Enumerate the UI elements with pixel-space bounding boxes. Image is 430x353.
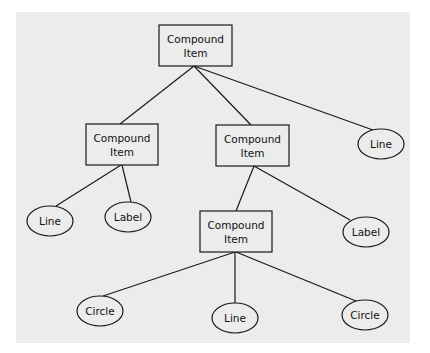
node-label: Compound [224,133,281,145]
node-label: Item [241,147,265,159]
compound-box [216,125,289,166]
node-label: Line [224,312,246,324]
node-line2: Line [27,206,73,236]
node-label: Label [352,226,380,238]
tree-diagram: CompoundItemCompoundItemCompoundItemLine… [0,0,430,353]
node-label: Item [184,47,208,59]
node-label2: Label [343,217,389,247]
node-label: Line [39,215,61,227]
node-line1: Line [358,129,404,159]
compound-box [200,211,272,252]
node-circle2: Circle [342,300,388,330]
node-c2: CompoundItem [216,125,289,166]
node-label: Item [224,233,248,245]
node-circle1: Circle [77,296,123,326]
node-label: Compound [207,219,264,231]
node-c3: CompoundItem [200,211,272,252]
node-label: Circle [350,309,380,321]
node-c1: CompoundItem [86,124,158,165]
node-label1: Label [105,202,151,232]
compound-box [159,25,232,66]
node-label: Compound [93,132,150,144]
node-label: Item [110,146,134,158]
node-label: Circle [85,305,115,317]
node-root: CompoundItem [159,25,232,66]
node-line3: Line [212,303,258,333]
node-label: Line [370,138,392,150]
node-label: Label [114,211,142,223]
compound-box [86,124,158,165]
node-label: Compound [167,33,224,45]
